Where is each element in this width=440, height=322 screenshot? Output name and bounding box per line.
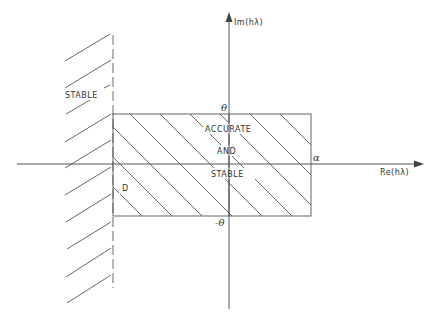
theta-bottom-marker: -θ	[215, 217, 224, 228]
imaginary-axis-label: Im(hλ)	[234, 18, 263, 27]
real-axis	[17, 161, 424, 168]
and-label: AND	[217, 147, 236, 156]
imaginary-axis-arrow-icon	[226, 12, 233, 22]
left-stable-label: STABLE	[65, 91, 98, 100]
stability-region-diagram: STABLE ACCURATE AND STABLE D θ -θ α Re(h…	[0, 0, 440, 322]
left-stable-hatching	[65, 34, 111, 303]
real-axis-arrow-icon	[414, 161, 424, 168]
alpha-marker: α	[313, 152, 320, 163]
accurate-label: ACCURATE	[205, 125, 251, 134]
region-d-label: D	[122, 184, 129, 193]
stable-label: STABLE	[211, 170, 244, 179]
theta-top-marker: θ	[221, 102, 227, 113]
real-axis-label: Re(hλ)	[380, 168, 409, 177]
